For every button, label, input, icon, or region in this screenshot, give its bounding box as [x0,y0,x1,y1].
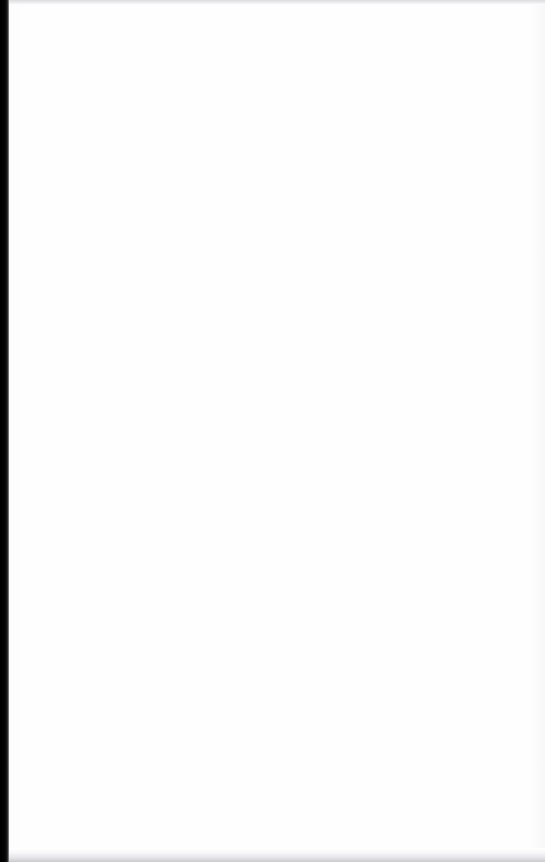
page-canvas: Blank white scanned page with a dark bin… [0,0,545,862]
binding-gutter [0,0,9,862]
page-content-area [34,46,516,816]
scan-edge-band-bottom [9,848,545,862]
scan-edge-band-top [9,0,545,5]
page-surface [0,0,545,862]
